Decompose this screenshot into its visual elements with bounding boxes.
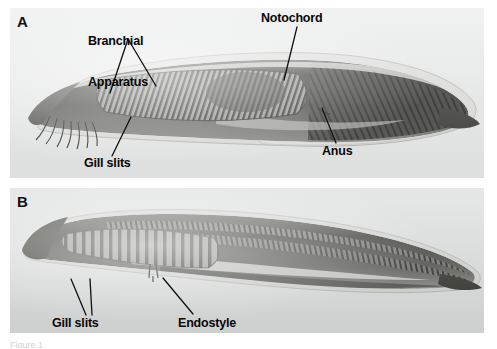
amphioxus-adult-photograph — [10, 8, 484, 178]
label-gill-slits-panel-a: Gill slits — [84, 157, 131, 171]
panel-a-letter: A — [17, 14, 28, 29]
label-gill-slits-panel-b: Gill slits — [52, 317, 99, 331]
panel-b-image — [10, 188, 484, 333]
label-branchial-apparatus: Branchial Apparatus — [88, 8, 148, 116]
label-notochord: Notochord — [261, 12, 322, 26]
label-anus: Anus — [322, 145, 352, 159]
label-endostyle: Endostyle — [178, 317, 236, 331]
label-branchial-apparatus-line1: Branchial — [88, 35, 148, 49]
panel-b-letter: B — [17, 194, 28, 209]
label-branchial-apparatus-line2: Apparatus — [88, 76, 148, 90]
figure-root: A B Branchial Apparatus Notochord Anus G… — [0, 0, 497, 349]
amphioxus-larva-photograph — [10, 188, 484, 333]
panel-a-image — [10, 8, 484, 178]
caption-fragment: Figure 1 — [10, 340, 310, 348]
